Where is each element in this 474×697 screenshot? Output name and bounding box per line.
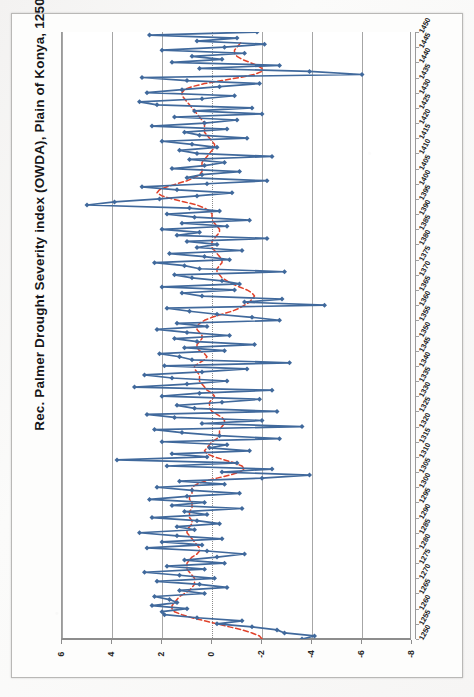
data-point-marker	[242, 300, 247, 305]
data-point-marker	[185, 239, 190, 244]
data-point-marker	[270, 388, 275, 393]
data-point-marker	[230, 190, 235, 195]
data-point-marker	[170, 375, 175, 380]
data-point-marker	[175, 533, 180, 538]
data-point-marker	[240, 506, 245, 511]
data-point-marker	[190, 275, 195, 280]
data-point-marker	[225, 127, 230, 132]
data-point-marker	[300, 424, 305, 429]
data-point-marker	[200, 369, 205, 374]
data-point-marker	[147, 33, 152, 38]
data-point-marker	[152, 260, 157, 265]
data-point-marker	[237, 281, 242, 286]
data-point-marker	[225, 585, 230, 590]
data-point-marker	[262, 42, 267, 47]
data-point-marker	[277, 436, 282, 441]
data-point-marker	[155, 485, 160, 490]
data-point-marker	[180, 430, 185, 435]
year-tick-1280	[416, 548, 419, 549]
figure-frame: Rec. Palmer Drought Severity index (OWDA…	[11, 13, 463, 678]
pdsi-annual-line	[87, 32, 362, 639]
value-tick-label-4: 4	[106, 642, 116, 666]
data-point-marker	[250, 624, 255, 629]
data-point-marker	[195, 39, 200, 44]
data-point-marker	[232, 93, 237, 98]
year-tick-1360	[416, 305, 419, 306]
year-tick-1270	[416, 578, 419, 579]
data-point-marker	[182, 509, 187, 514]
data-point-marker	[195, 518, 200, 523]
data-point-marker	[212, 576, 217, 581]
value-axis: 6420-2-4-6-8	[61, 639, 411, 650]
year-tick-1380	[416, 244, 419, 245]
data-point-marker	[200, 542, 205, 547]
data-point-marker	[197, 391, 202, 396]
data-point-marker	[160, 439, 165, 444]
data-point-marker	[192, 406, 197, 411]
plot-area	[61, 32, 411, 639]
data-point-marker	[222, 482, 227, 487]
data-point-marker	[175, 524, 180, 529]
data-point-marker	[182, 345, 187, 350]
data-point-marker	[180, 291, 185, 296]
data-point-marker	[265, 236, 270, 241]
data-point-marker	[177, 588, 182, 593]
data-point-marker	[145, 90, 150, 95]
data-point-marker	[190, 488, 195, 493]
data-point-marker	[175, 321, 180, 326]
data-point-marker	[195, 193, 200, 198]
data-point-marker	[222, 45, 227, 50]
data-point-marker	[175, 403, 180, 408]
year-tick-1420	[416, 123, 419, 124]
scanned-page: Rec. Palmer Drought Severity index (OWDA…	[0, 0, 474, 697]
data-point-marker	[282, 630, 287, 635]
data-point-marker	[175, 233, 180, 238]
data-point-marker	[197, 66, 202, 71]
data-point-marker	[142, 570, 147, 575]
year-tick-1445	[416, 47, 419, 48]
data-point-marker	[197, 230, 202, 235]
data-point-marker	[187, 309, 192, 314]
data-point-marker	[227, 257, 232, 262]
data-point-marker	[287, 360, 292, 365]
data-point-marker	[172, 272, 177, 277]
data-point-marker	[275, 409, 280, 414]
data-point-marker	[360, 72, 365, 77]
data-point-marker	[197, 133, 202, 138]
value-tick-label--2: -2	[256, 642, 266, 666]
data-point-marker	[85, 202, 90, 207]
data-point-marker	[245, 136, 250, 141]
data-point-marker	[187, 157, 192, 162]
data-point-marker	[242, 51, 247, 56]
data-point-marker	[197, 266, 202, 271]
data-point-marker	[167, 597, 172, 602]
data-point-marker	[137, 530, 142, 535]
data-point-marker	[260, 476, 265, 481]
data-point-marker	[155, 327, 160, 332]
data-point-marker	[252, 342, 257, 347]
data-point-marker	[172, 415, 177, 420]
data-point-marker	[150, 124, 155, 129]
data-point-marker	[150, 603, 155, 608]
data-point-marker	[160, 227, 165, 232]
year-tick-1340	[416, 366, 419, 367]
data-point-marker	[165, 212, 170, 217]
year-tick-1275	[416, 563, 419, 564]
data-point-marker	[225, 442, 230, 447]
data-point-marker	[160, 48, 165, 53]
data-point-marker	[190, 54, 195, 59]
data-point-marker	[202, 567, 207, 572]
data-point-marker	[255, 32, 260, 35]
year-tick-1295	[416, 502, 419, 503]
data-point-marker	[185, 382, 190, 387]
year-tick-1355	[416, 320, 419, 321]
data-point-marker	[215, 621, 220, 626]
year-tick-1305	[416, 472, 419, 473]
year-axis: 1250125512601265127012751280128512901295…	[415, 32, 472, 639]
data-point-marker	[170, 451, 175, 456]
data-point-marker	[222, 160, 227, 165]
chart-title: Rec. Palmer Drought Severity index (OWDA…	[33, 11, 47, 431]
data-point-marker	[277, 318, 282, 323]
data-point-marker	[112, 199, 117, 204]
data-point-marker	[190, 357, 195, 362]
